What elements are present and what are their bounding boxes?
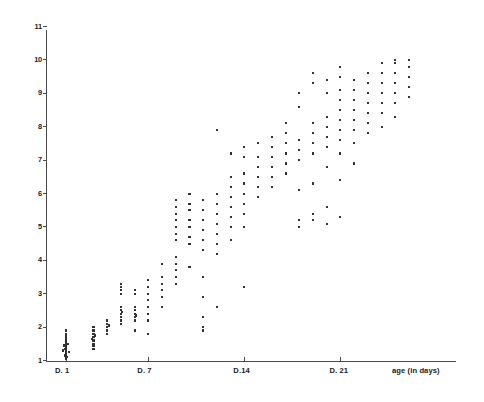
data-point [147,293,149,295]
y-tick-label: 2 [24,322,42,331]
data-point [202,239,204,241]
data-point [257,166,259,168]
data-point [285,152,287,154]
y-tick-label: 10 [24,55,42,64]
y-tick-mark [43,126,47,127]
data-point [394,59,396,61]
data-point [216,193,218,195]
data-point [271,186,273,188]
data-point [353,119,355,121]
data-point [120,316,122,318]
x-axis-line [46,361,456,362]
data-point [91,338,93,340]
data-point [230,206,232,208]
data-point [394,72,396,74]
data-point [216,253,218,255]
data-point [381,112,383,114]
data-point [408,86,410,88]
x-tick-mark [340,357,341,361]
data-point [326,79,328,81]
y-axis-line [46,30,47,361]
data-point [92,326,94,328]
data-point [408,96,410,98]
data-point [353,99,355,101]
data-point [257,156,259,158]
data-point [175,233,177,235]
data-point [230,196,232,198]
data-point [367,112,369,114]
data-point [175,263,177,265]
data-point [106,333,108,335]
data-point [271,156,273,158]
data-point [134,306,136,308]
data-point [65,329,67,331]
data-point [230,186,232,188]
data-point [147,279,149,281]
data-point [326,126,328,128]
data-point [367,122,369,124]
data-point [408,66,410,68]
y-tick-mark [43,360,47,361]
data-point [121,311,123,313]
x-tick-label: D. 1 [55,366,69,375]
data-point [216,213,218,215]
data-point [161,306,163,308]
data-point [339,139,341,141]
data-point [175,276,177,278]
data-point [175,206,177,208]
data-point [394,102,396,104]
data-point [65,333,67,335]
data-point [202,209,204,211]
data-point [339,119,341,121]
data-point [339,109,341,111]
data-point [65,338,67,340]
data-point [257,176,259,178]
data-point [175,269,177,271]
data-point [147,299,149,301]
data-point [285,162,287,164]
y-tick-label: 5 [24,222,42,231]
data-point [120,283,122,285]
data-point [243,182,245,184]
data-point [326,116,328,118]
data-point [216,223,218,225]
data-point [147,286,149,288]
y-tick-label: 4 [24,255,42,264]
data-point [367,92,369,94]
data-point [147,319,149,321]
data-point [271,136,273,138]
data-point [230,226,232,228]
data-point [298,226,300,228]
data-point [339,89,341,91]
data-point [135,314,137,316]
data-point [381,102,383,104]
data-point [202,329,204,331]
data-point [216,233,218,235]
data-point [188,203,190,205]
data-point [285,122,287,124]
y-tick-label: 11 [24,22,42,31]
data-point [202,199,204,201]
data-point [271,176,273,178]
data-point [106,319,108,321]
data-point [243,286,245,288]
data-point [312,132,314,134]
y-tick-mark [43,26,47,27]
data-point [381,72,383,74]
data-point [312,213,314,215]
data-point [326,146,328,148]
data-point [243,156,245,158]
data-point [216,243,218,245]
x-axis-title: age (in days) [392,366,440,375]
data-point [381,92,383,94]
data-point [243,213,245,215]
data-point [216,129,218,131]
data-point [285,172,287,174]
data-point [188,209,190,211]
data-point [257,142,259,144]
data-point [339,216,341,218]
data-point [339,179,341,181]
data-point [298,139,300,141]
data-point [188,193,190,195]
data-point [120,313,122,315]
